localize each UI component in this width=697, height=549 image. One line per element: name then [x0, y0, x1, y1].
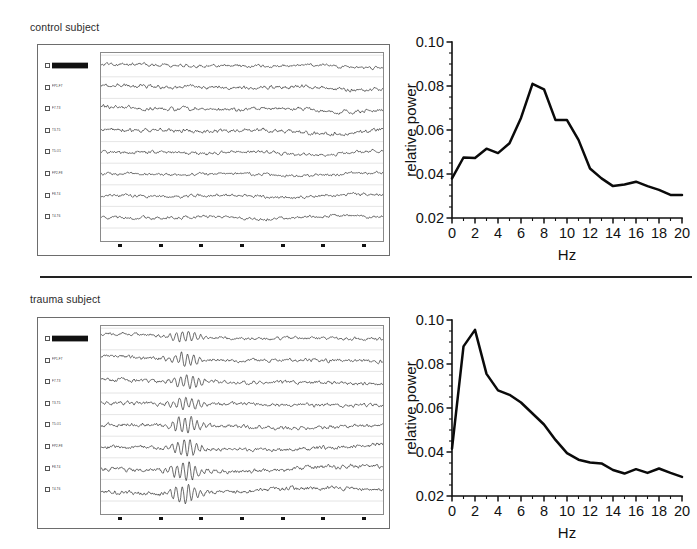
y-axis-title: relative power: [402, 361, 419, 454]
channel-checkbox-icon[interactable]: [45, 401, 50, 406]
x-axis-tick-label: 0: [448, 225, 456, 241]
eeg-channel-label: T3-T5: [45, 399, 60, 408]
eeg-channel-label-text: FP1-F7: [52, 85, 63, 89]
eeg-time-tick: [321, 244, 325, 247]
eeg-time-tick-mark: [240, 517, 244, 520]
eeg-trace: [101, 462, 383, 481]
eeg-figure: control subject FP1-F7F7-T3T3-T5T5-O1FP2…: [0, 0, 697, 549]
x-axis-tick-label: 6: [517, 503, 525, 519]
eeg-time-tick: [159, 244, 163, 247]
eeg-trace: [101, 440, 383, 456]
eeg-channel-label: T5-O1: [45, 420, 61, 429]
eeg-time-tick: [199, 517, 203, 520]
eeg-channel-label: FP1-F7: [45, 356, 63, 365]
spectrum-data-line: [452, 84, 682, 195]
eeg-channel-label: F7-T3: [45, 377, 60, 386]
eeg-time-axis-control: [100, 241, 384, 253]
eeg-trace: [101, 171, 383, 177]
eeg-channel-label: F7-T3: [45, 104, 60, 113]
eeg-time-tick: [281, 244, 285, 247]
trauma-subject-caption: trauma subject: [30, 293, 100, 305]
eeg-time-tick-mark: [362, 517, 366, 520]
eeg-channel-label-column: FP1-F7F7-T3T3-T5T5-O1FP2-F8F8-T4T4-T6: [41, 318, 97, 528]
channel-checkbox-icon[interactable]: [45, 336, 50, 341]
eeg-time-tick-mark: [240, 244, 244, 247]
y-axis-tick-label: 0.04: [416, 166, 444, 182]
eeg-time-tick-mark: [159, 517, 163, 520]
eeg-channel-label: T5-O1: [45, 147, 61, 156]
channel-checkbox-icon[interactable]: [45, 149, 50, 154]
x-axis-tick-label: 6: [517, 225, 525, 241]
y-axis-title: relative power: [402, 83, 419, 176]
eeg-time-tick-mark: [362, 244, 366, 247]
eeg-channel-label: F8-T4: [45, 191, 60, 200]
spectrum-svg: 0.020.040.060.080.1002468101214161820Hzr…: [400, 28, 692, 260]
eeg-time-tick: [362, 517, 366, 520]
panel-divider: [40, 276, 692, 278]
eeg-time-tick: [281, 517, 285, 520]
eeg-trace: [101, 352, 383, 367]
eeg-channel-label-text: T4-T6: [52, 215, 60, 219]
channel-checkbox-icon[interactable]: [45, 487, 50, 492]
eeg-channel-label: [45, 334, 88, 343]
channel-checkbox-icon[interactable]: [45, 106, 50, 111]
eeg-channel-label-text: FP1-F7: [52, 358, 63, 362]
eeg-channel-label-text: T3-T5: [52, 128, 60, 132]
chart-axes: [452, 320, 682, 496]
eeg-time-tick: [159, 517, 163, 520]
channel-checkbox-icon[interactable]: [45, 128, 50, 133]
x-axis-tick-label: 8: [540, 503, 548, 519]
y-axis-tick-label: 0.02: [416, 488, 444, 504]
x-axis-tick-label: 10: [559, 503, 575, 519]
channel-checkbox-icon[interactable]: [45, 63, 50, 68]
eeg-channel-label-column: FP1-F7F7-T3T3-T5T5-O1FP2-F8F8-T4T4-T6: [41, 45, 97, 255]
x-axis-tick-label: 14: [605, 503, 621, 519]
eeg-trace: [101, 193, 383, 199]
power-spectrum-chart-trauma: 0.020.040.060.080.1002468101214161820Hzr…: [400, 306, 692, 538]
eeg-channel-label: FP2-F8: [45, 169, 63, 178]
y-axis-tick-label: 0.08: [416, 356, 444, 372]
eeg-channel-label-text: T5-O1: [52, 423, 61, 427]
eeg-time-tick-mark: [321, 517, 325, 520]
channel-checkbox-icon[interactable]: [45, 85, 50, 90]
eeg-time-tick: [362, 244, 366, 247]
x-axis-tick-label: 16: [628, 225, 644, 241]
eeg-trace: [101, 105, 383, 115]
eeg-channel-label: T4-T6: [45, 485, 60, 494]
eeg-channel-label-text: T5-O1: [52, 150, 61, 154]
eeg-time-tick-mark: [118, 517, 122, 520]
x-axis-tick-label: 4: [494, 503, 502, 519]
eeg-channel-label-text: [52, 63, 88, 68]
eeg-trace-plot-control: [100, 52, 384, 242]
y-axis-tick-label: 0.06: [416, 400, 444, 416]
channel-checkbox-icon[interactable]: [45, 171, 50, 176]
eeg-channel-label: F8-T4: [45, 464, 60, 473]
eeg-channel-label-text: FP2-F8: [52, 172, 63, 176]
eeg-trace: [101, 62, 383, 69]
channel-checkbox-icon[interactable]: [45, 379, 50, 384]
x-axis-tick-label: 0: [448, 503, 456, 519]
x-axis-tick-label: 12: [582, 225, 598, 241]
eeg-time-tick-mark: [281, 517, 285, 520]
channel-checkbox-icon[interactable]: [45, 466, 50, 471]
eeg-channel-label-text: F7-T3: [52, 107, 60, 111]
eeg-time-tick-mark: [281, 244, 285, 247]
eeg-channel-label: [45, 61, 88, 70]
eeg-channel-label: FP1-F7: [45, 83, 63, 92]
x-axis-tick-label: 16: [628, 503, 644, 519]
channel-checkbox-icon[interactable]: [45, 193, 50, 198]
eeg-trace-plot-trauma: [100, 325, 384, 515]
eeg-panel-control: FP1-F7F7-T3T3-T5T5-O1FP2-F8F8-T4T4-T6: [37, 44, 390, 256]
x-axis-tick-label: 2: [471, 225, 479, 241]
eeg-time-tick-mark: [199, 517, 203, 520]
x-axis-title: Hz: [558, 246, 576, 260]
channel-checkbox-icon[interactable]: [45, 358, 50, 363]
eeg-time-tick: [199, 244, 203, 247]
x-axis-tick-label: 8: [540, 225, 548, 241]
channel-checkbox-icon[interactable]: [45, 422, 50, 427]
eeg-time-tick: [240, 244, 244, 247]
eeg-trace-svg: [101, 53, 383, 241]
channel-checkbox-icon[interactable]: [45, 444, 50, 449]
channel-checkbox-icon[interactable]: [45, 214, 50, 219]
eeg-channel-label-text: F8-T4: [52, 466, 60, 470]
